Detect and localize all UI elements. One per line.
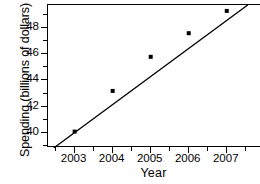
data-point bbox=[149, 55, 153, 59]
y-tick-label: 48 bbox=[17, 21, 39, 32]
plot-area bbox=[47, 4, 260, 147]
x-tick-label: 2005 bbox=[130, 152, 170, 165]
data-point bbox=[187, 31, 191, 35]
data-point bbox=[111, 89, 115, 93]
y-tick-label: 40 bbox=[17, 126, 39, 137]
regression-line bbox=[54, 5, 248, 148]
y-tick-label: 44 bbox=[17, 73, 39, 84]
plot-canvas bbox=[48, 5, 260, 148]
x-tick-label: 2004 bbox=[92, 152, 132, 165]
data-point bbox=[73, 130, 77, 134]
data-points bbox=[73, 9, 229, 134]
x-tick-label: 2003 bbox=[54, 152, 94, 165]
x-axis-title: Year bbox=[47, 166, 260, 180]
x-tick-label: 2007 bbox=[206, 152, 246, 165]
data-point bbox=[225, 9, 229, 13]
y-tick-label: 42 bbox=[17, 100, 39, 111]
scatter-plot-figure: Spending (billions of dollars) 404244464… bbox=[0, 0, 260, 184]
y-tick-label: 46 bbox=[17, 47, 39, 58]
x-tick-label: 2006 bbox=[168, 152, 208, 165]
